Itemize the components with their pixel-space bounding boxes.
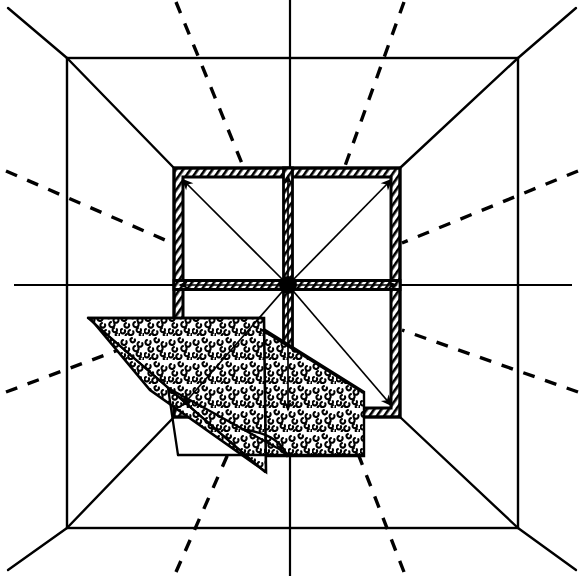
perspective-cube-diagram: Isometric cube perspective construction … bbox=[0, 0, 584, 576]
center-hub-dot bbox=[279, 276, 297, 294]
center-hub bbox=[279, 276, 297, 294]
figure-canvas: Isometric cube perspective construction … bbox=[0, 0, 584, 576]
